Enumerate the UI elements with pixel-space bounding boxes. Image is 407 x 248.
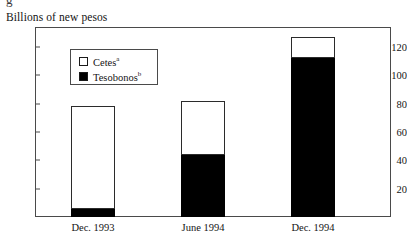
bar-segment-tesobonos bbox=[71, 209, 115, 218]
y-axis-tick-label: 120 bbox=[381, 41, 407, 52]
stacked-bar bbox=[291, 37, 335, 217]
legend-label-cetes: Cetesa bbox=[93, 55, 119, 68]
y-axis-tick-label: 20 bbox=[381, 183, 407, 194]
clipped-glyph: g bbox=[6, 0, 13, 6]
x-axis-tick-label: Dec. 1994 bbox=[291, 222, 334, 233]
y-axis-tick-mark bbox=[35, 75, 40, 76]
chart-legend: Cetesa Tesobonosb bbox=[70, 49, 158, 85]
y-axis-tick-label: 100 bbox=[381, 70, 407, 81]
y-axis-tick-mark bbox=[35, 160, 40, 161]
stacked-bar bbox=[181, 101, 225, 217]
legend-item-cetes: Cetesa bbox=[79, 54, 157, 69]
y-axis-tick-mark bbox=[35, 188, 40, 189]
legend-label-tesobonos: Tesobonosb bbox=[93, 70, 141, 83]
bar-segment-tesobonos bbox=[291, 58, 335, 217]
x-axis-tick-label: June 1994 bbox=[182, 222, 225, 233]
legend-item-tesobonos: Tesobonosb bbox=[79, 69, 157, 84]
bar-segment-cetes bbox=[291, 37, 335, 58]
stacked-bar bbox=[71, 106, 115, 217]
y-axis-tick-mark bbox=[35, 131, 40, 132]
white-square-swatch-icon bbox=[79, 57, 88, 66]
bar-segment-tesobonos bbox=[181, 155, 225, 217]
y-axis-tick-label: 80 bbox=[381, 98, 407, 109]
x-axis-tick-label: Dec. 1993 bbox=[71, 222, 114, 233]
y-axis-tick-mark bbox=[35, 103, 40, 104]
y-axis-tick-label: 60 bbox=[381, 126, 407, 137]
chart-figure: g Billions of new pesos 20406080100120 D… bbox=[0, 0, 407, 248]
black-square-swatch-icon bbox=[79, 72, 88, 81]
y-axis-tick-mark bbox=[35, 46, 40, 47]
y-axis-tick-label: 40 bbox=[381, 155, 407, 166]
y-axis-title: Billions of new pesos bbox=[6, 11, 107, 23]
bar-segment-cetes bbox=[181, 101, 225, 155]
bar-segment-cetes bbox=[71, 106, 115, 208]
